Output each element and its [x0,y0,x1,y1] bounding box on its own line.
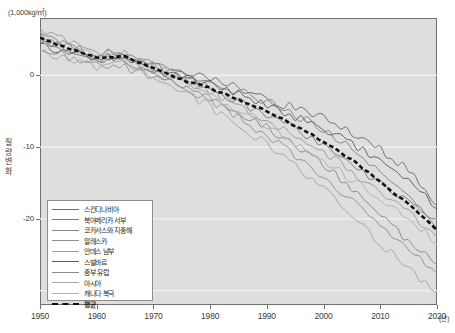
legend-item: 스칸디나비아 [48,204,152,215]
legend-swatch [52,303,79,305]
x-tick-mark [324,305,325,309]
legend-label: 평균 [84,299,95,309]
legend-swatch [52,240,79,241]
y-tick-label: -20 [8,214,34,223]
x-tick-mark [153,305,154,309]
legend-item: 평균 [48,299,152,310]
legend-label: 코카서스와 지중해 [84,225,131,235]
legend-label: 안데스 남부 [84,246,114,256]
x-tick-label: 1980 [190,311,230,321]
legend-label: 스발바르 [84,257,107,267]
y-tick-mark [36,147,40,148]
legend-swatch [52,261,79,262]
legend-swatch [52,209,79,210]
legend-item: 안데스 남부 [48,246,152,257]
x-tick-mark [210,305,211,309]
x-axis-unit-label: (년) [439,313,449,323]
x-tick-label: 1960 [77,311,117,321]
legend-item: 중부 유럽 [48,267,152,278]
y-tick-label: -10 [8,142,34,151]
legend-item: 알래스카 [48,236,152,247]
legend: 스칸디나비아북아메리카 서부코카서스와 지중해알래스카안데스 남부스발바르중부 … [47,200,153,301]
legend-swatch [52,230,79,231]
legend-swatch [52,272,79,273]
y-tick-mark [36,219,40,220]
y-axis-unit-label: (1,000kg/㎡) [8,6,47,17]
glacier-mass-change-chart: (1,000kg/㎡) 질량변화 0-10-20 195019601970198… [0,0,455,333]
legend-swatch [52,251,79,252]
legend-swatch [52,219,79,220]
legend-label: 아시아 [84,278,101,288]
x-tick-label: 1970 [133,311,173,321]
series-line [40,41,437,206]
y-tick-label: 0 [8,70,34,79]
x-tick-mark [437,305,438,309]
legend-item: 캐나다 북극 [48,288,152,299]
legend-item: 북아메리카 서부 [48,215,152,226]
x-tick-label: 2010 [360,311,400,321]
legend-label: 알래스카 [84,236,107,246]
legend-item: 코카서스와 지중해 [48,225,152,236]
x-tick-label: 1950 [20,311,60,321]
x-tick-label: 1990 [247,311,287,321]
legend-label: 스칸디나비아 [84,204,118,214]
legend-label: 캐나다 북극 [84,288,114,298]
legend-label: 북아메리카 서부 [84,215,126,225]
legend-label: 중부 유럽 [84,267,108,277]
legend-swatch [52,282,79,283]
legend-item: 스발바르 [48,257,152,268]
y-tick-mark [36,75,40,76]
legend-swatch [52,293,79,294]
x-tick-mark [267,305,268,309]
x-tick-label: 2000 [304,311,344,321]
x-tick-mark [40,305,41,309]
x-tick-mark [380,305,381,309]
legend-item: 아시아 [48,278,152,289]
